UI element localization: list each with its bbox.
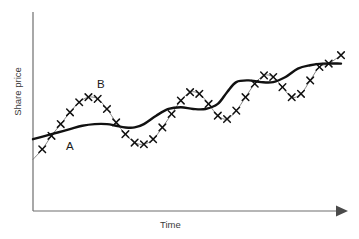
data-point-marker [104, 106, 111, 113]
data-point-marker [67, 109, 74, 116]
data-point-marker [196, 91, 203, 98]
data-point-marker [57, 121, 64, 128]
data-point-marker [39, 146, 46, 153]
data-point-marker [76, 99, 83, 106]
data-point-marker [122, 131, 129, 138]
data-point-marker [215, 112, 222, 119]
data-point-marker [150, 136, 157, 143]
data-point-markers [39, 52, 344, 153]
y-axis-label: Share price [12, 57, 23, 127]
data-point-marker [159, 124, 166, 131]
x-axis-arrow-icon [336, 206, 348, 217]
data-point-marker [270, 74, 277, 81]
chart-canvas [0, 0, 359, 239]
data-point-marker [279, 84, 286, 91]
data-point-marker [205, 101, 212, 108]
chart-figure: Share price Time A B [0, 0, 359, 239]
data-point-marker [307, 77, 314, 84]
data-point-marker [178, 97, 185, 104]
data-point-marker [242, 94, 249, 101]
data-point-marker [298, 91, 305, 98]
data-point-marker [233, 107, 240, 114]
x-axis-label: Time [160, 219, 181, 230]
data-point-marker [168, 111, 175, 118]
data-point-marker [187, 89, 194, 96]
curve-a-annotation: A [66, 140, 74, 152]
curve-b-annotation: B [97, 78, 105, 90]
axes-group [33, 12, 348, 217]
data-point-marker [94, 96, 101, 103]
data-point-marker [261, 72, 268, 79]
data-point-marker [338, 52, 345, 59]
data-point-marker [131, 139, 138, 146]
